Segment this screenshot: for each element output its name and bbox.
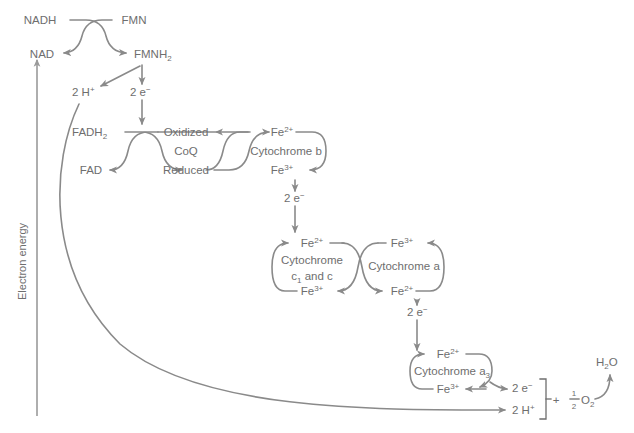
electron-transport-chain-diagram: Electron energy NADH FMN NAD FMNH2 2 H+ … [0,0,634,433]
label-oxygen: O2 [581,394,595,409]
label-two-electrons-1: 2 e− [130,85,151,98]
label-fad: FAD [80,164,102,176]
label-fmn: FMN [122,14,147,26]
label-coq-reduced: Reduced [163,164,209,176]
label-cytochrome-a3: Cytochrome a3 [414,365,491,380]
diagram-canvas: Electron energy NADH FMN NAD FMNH2 2 H+ … [0,0,634,433]
label-cytb-fe2: Fe2+ [271,125,294,138]
label-fmnh2: FMNH2 [134,48,172,63]
label-cyta3-fe3: Fe3+ [437,382,460,395]
label-cytochrome-c-line2: c1 and c [291,270,333,285]
label-two-electrons-3: 2 e− [407,305,428,318]
fmnh2-to-protons-arrow [101,66,140,86]
label-two-electrons-2: 2 e− [284,191,305,204]
cytochrome-c-loop [272,243,344,291]
label-two-protons-bottom: 2 H+ [512,403,535,416]
products-bracket [540,379,551,419]
label-cyta-fe2: Fe2+ [391,284,414,297]
label-cyta-fe3: Fe3+ [391,236,414,249]
label-nadh: NADH [24,14,57,26]
label-water: H2O [596,356,618,371]
label-fadh2: FADH2 [72,126,108,141]
axis-label-electron-energy: Electron energy [16,222,28,300]
label-half-denominator: 2 [572,402,577,411]
label-plus-sign: + [553,394,560,406]
label-nad: NAD [30,48,54,60]
label-cytc-fe3: Fe3+ [301,284,324,297]
label-half-numerator: 1 [572,389,577,398]
label-cytochrome-c-line1: Cytochrome [281,254,343,266]
label-cytochrome-a: Cytochrome a [368,260,440,272]
label-cytc-fe2: Fe2+ [301,236,324,249]
label-two-electrons-4: 2 e− [512,381,533,394]
label-two-protons-top: 2 H+ [72,85,95,98]
water-formation-arrow [595,375,610,399]
label-coq: CoQ [174,145,198,157]
label-coq-oxidized: Oxidized [164,126,209,138]
label-cyta3-fe2: Fe2+ [437,347,460,360]
nadh-fmn-crossover-arrows [64,20,126,53]
label-cytochrome-b: Cytochrome b [250,145,322,157]
label-cytb-fe3: Fe3+ [271,163,294,176]
